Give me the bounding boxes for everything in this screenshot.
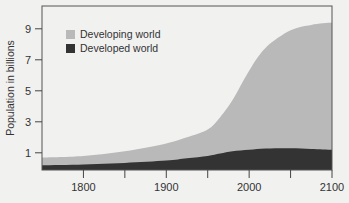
legend-label-developing: Developing world	[80, 28, 161, 40]
y-axis-title: Population in billions	[4, 40, 16, 136]
x-tick-label: 1900	[154, 181, 178, 193]
x-axis: 1800190020002100	[71, 170, 344, 193]
y-tick-label: 1	[25, 147, 31, 159]
x-tick-label: 2100	[320, 181, 344, 193]
y-tick-label: 3	[25, 116, 31, 128]
y-tick-label: 5	[25, 85, 31, 97]
legend-swatch-developing	[66, 30, 75, 39]
y-tick-label: 7	[25, 54, 31, 66]
x-tick-label: 1800	[71, 181, 95, 193]
y-tick-label: 9	[25, 23, 31, 35]
legend-swatch-developed	[66, 44, 75, 53]
legend: Developing world Developed world	[66, 28, 161, 54]
x-tick-label: 2000	[237, 181, 261, 193]
legend-label-developed: Developed world	[80, 42, 158, 54]
population-area-chart: 13579 1800190020002100 Population in bil…	[0, 0, 349, 203]
y-axis: 13579	[25, 23, 42, 159]
